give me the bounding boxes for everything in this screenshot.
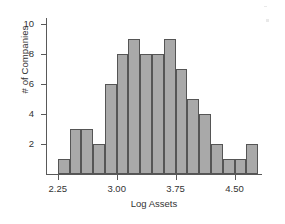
x-axis-line (46, 174, 262, 175)
x-tick-mark (117, 175, 118, 180)
y-tick-label: 6 (29, 78, 34, 89)
histogram-bar (58, 159, 70, 174)
y-tick-label: 4 (29, 108, 34, 119)
x-tick-label: 3.75 (166, 183, 185, 194)
histogram-bar (105, 84, 117, 174)
bar-series (46, 18, 262, 174)
scan-artifact (266, 19, 269, 22)
histogram-bar (199, 114, 211, 174)
histogram-bar (93, 144, 105, 174)
y-tick-label: 2 (29, 138, 34, 149)
x-tick-label: 4.50 (225, 183, 244, 194)
x-tick-mark (235, 175, 236, 180)
histogram-bar (128, 39, 140, 174)
histogram-bar (211, 144, 223, 174)
histogram-bar (164, 39, 176, 174)
histogram-bar (152, 54, 164, 174)
histogram-bar (70, 129, 82, 174)
x-tick-label: 3.00 (107, 183, 126, 194)
scan-artifact (264, 6, 267, 7)
histogram-bar (117, 54, 129, 174)
histogram-bar (235, 159, 247, 174)
x-tick-mark (176, 175, 177, 180)
histogram-bar (81, 129, 93, 174)
y-tick-label: 8 (29, 48, 34, 59)
histogram-bar (246, 144, 258, 174)
x-axis-title: Log Assets (46, 198, 262, 209)
histogram-bar (176, 69, 188, 174)
y-tick-label: 10 (23, 18, 34, 29)
x-tick-mark (58, 175, 59, 180)
plot-area: 246810 2.253.003.754.50 (46, 18, 262, 174)
histogram-bar (140, 54, 152, 174)
histogram-figure: # of Companies 246810 2.253.003.754.50 L… (0, 0, 285, 224)
histogram-bar (223, 159, 235, 174)
x-tick-label: 2.25 (49, 183, 68, 194)
histogram-bar (187, 99, 199, 174)
